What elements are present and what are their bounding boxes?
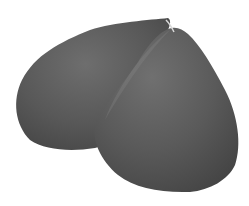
image-scene: [0, 0, 249, 206]
object-illustration: [0, 0, 249, 206]
